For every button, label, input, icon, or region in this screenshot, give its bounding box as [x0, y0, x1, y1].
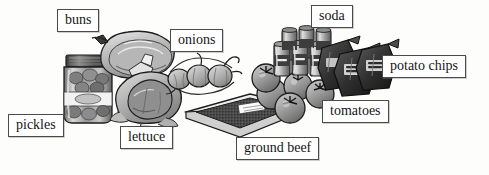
- label-potato-chips: potato chips: [382, 55, 466, 78]
- label-onions: onions: [170, 29, 223, 52]
- label-buns: buns: [57, 9, 99, 32]
- label-ground-beef: ground beef: [236, 137, 319, 160]
- pickle-jar-art: [64, 55, 112, 123]
- label-soda: soda: [311, 5, 353, 28]
- illustration-scene: pickles buns lettuce onions ground beef …: [0, 0, 489, 175]
- label-tomatoes: tomatoes: [322, 100, 389, 123]
- lettuce-art: [110, 54, 181, 136]
- onion-string-art: [166, 53, 242, 94]
- soda-sixpack-art: [274, 26, 331, 76]
- label-pickles: pickles: [8, 114, 64, 137]
- label-lettuce: lettuce: [120, 126, 173, 149]
- beef-tray-art: [186, 94, 302, 137]
- bun-bag-art: [92, 31, 174, 78]
